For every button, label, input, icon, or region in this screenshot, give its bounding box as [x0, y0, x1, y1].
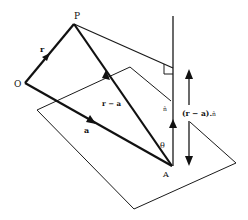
label-point-a: A [162, 170, 169, 179]
label-vector-r: r [40, 44, 45, 54]
label-projection: (r − a).n̂ [182, 109, 216, 118]
plane-edge-bottom [134, 163, 236, 209]
label-projection-prefix: (r − a). [182, 109, 212, 118]
projection-arrow-head-down [185, 156, 193, 166]
plane-edge-top-right-lower [190, 122, 236, 163]
plane-edge-top-right-upper [130, 67, 171, 101]
label-angle-theta: θ [160, 141, 165, 150]
vector-plane-diagram: P O A r a r − a n̂ θ (r − a).n̂ [0, 0, 248, 220]
vector-a-arrowhead [86, 115, 96, 124]
label-vector-r-minus-a: r − a [102, 99, 121, 108]
label-projection-suffix: n̂ [212, 110, 216, 117]
label-point-o: O [14, 79, 21, 89]
normal-arrowhead [169, 119, 177, 128]
label-point-p: P [74, 11, 80, 21]
label-normal: n̂ [163, 105, 167, 112]
plane [37, 67, 236, 209]
projection-arrow-head-up [185, 69, 193, 79]
label-vector-a: a [84, 125, 89, 135]
vector-a [25, 83, 172, 166]
